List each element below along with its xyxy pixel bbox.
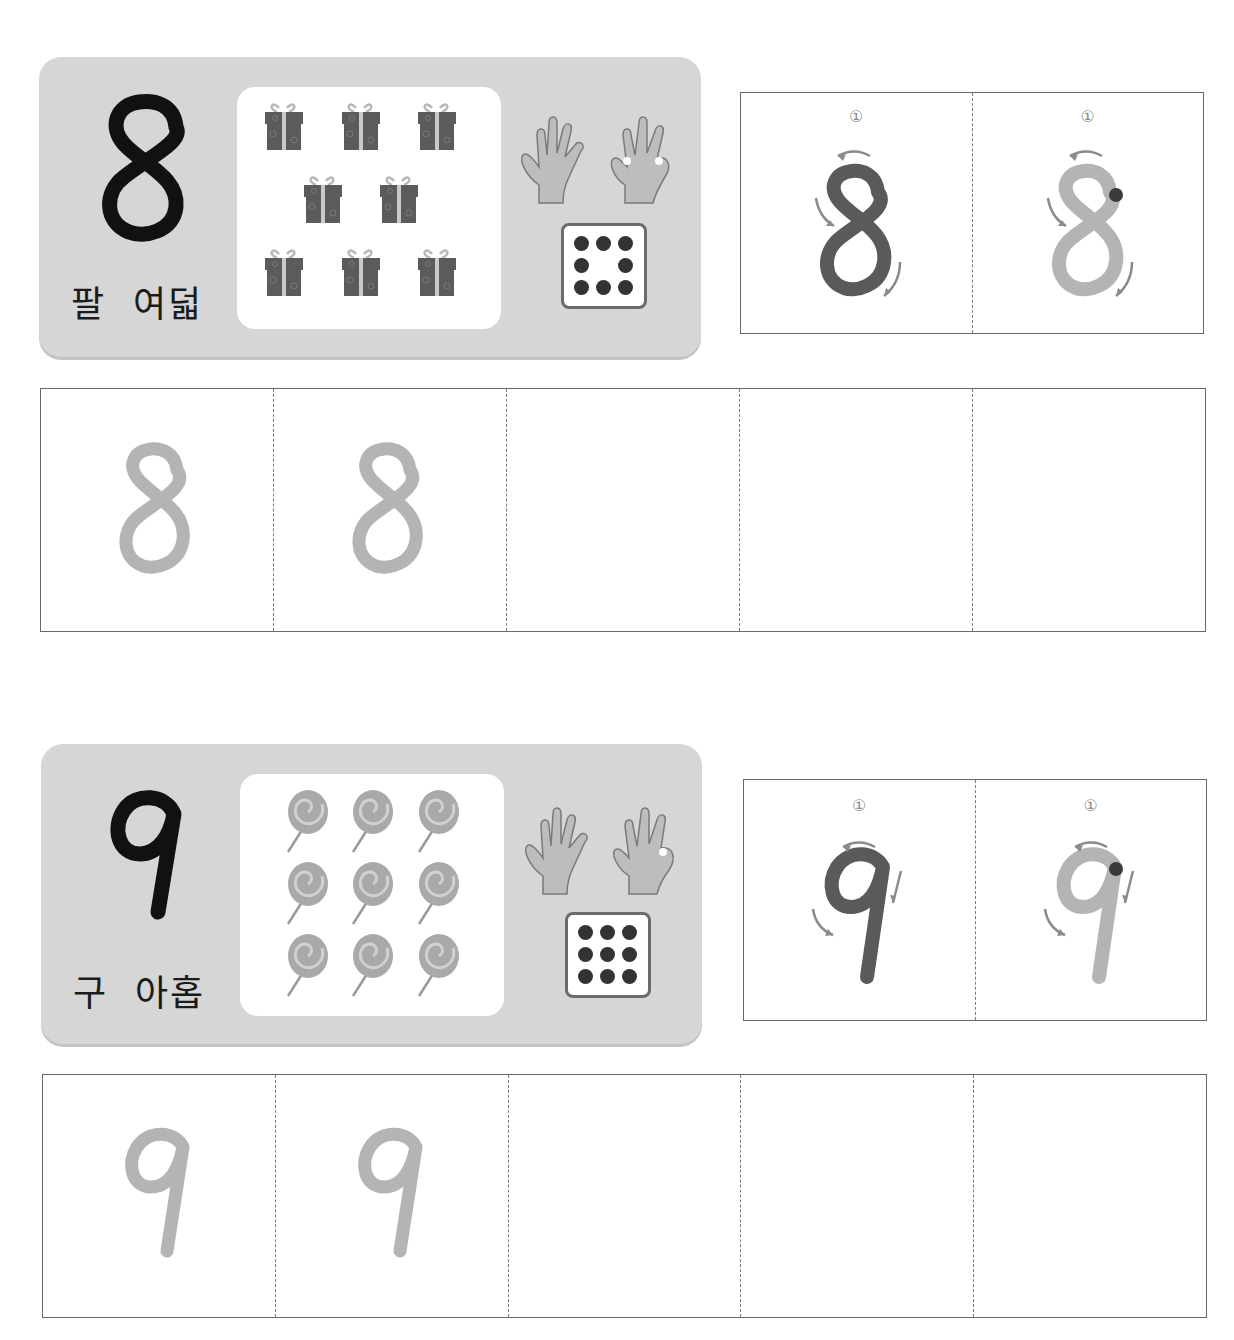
picture-panel-lollipops [240, 774, 504, 1016]
gift-box-icon-group [237, 87, 501, 329]
stroke-guide-box-9: ① ① [743, 779, 1207, 1021]
practice-cell-empty[interactable] [507, 389, 740, 631]
hands-eight-fingers-icon [517, 115, 687, 205]
dice-9-pips [565, 912, 651, 998]
practice-cell-empty[interactable] [509, 1075, 742, 1317]
step-label: ① [852, 796, 866, 815]
step-label: ① [1084, 796, 1098, 815]
practice-row-9 [42, 1074, 1207, 1318]
big-digit-8 [94, 92, 194, 242]
stroke-trace-cell-8[interactable]: ① [973, 93, 1204, 333]
practice-cell-trace[interactable] [43, 1075, 276, 1317]
step-label: ① [849, 107, 863, 126]
practice-row-8 [40, 388, 1206, 632]
stroke-model-cell-9: ① [744, 780, 976, 1020]
practice-cell-empty[interactable] [741, 1075, 974, 1317]
picture-panel-gifts [237, 87, 501, 329]
practice-cell-empty[interactable] [740, 389, 973, 631]
digit-8-trace-icon [107, 440, 207, 580]
practice-cell-trace[interactable] [41, 389, 274, 631]
digit-9-trace-icon [1031, 827, 1151, 997]
number-card-9: 구 아홉 [41, 744, 702, 1044]
number-word-8: 팔 여덟 [71, 275, 203, 327]
number-word-9: 구 아홉 [73, 964, 205, 1016]
step-label: ① [1081, 107, 1095, 126]
practice-cell-trace[interactable] [276, 1075, 509, 1317]
practice-cell-trace[interactable] [274, 389, 507, 631]
digit-8-trace-icon [340, 440, 440, 580]
dice-8-pips [561, 223, 647, 309]
start-dot-icon [1109, 862, 1123, 876]
stroke-trace-cell-9[interactable]: ① [976, 780, 1207, 1020]
big-digit-9 [96, 784, 196, 934]
digit-8-model-icon [796, 140, 916, 310]
digit-8-trace-icon [1028, 140, 1148, 310]
digit-9-trace-icon [109, 1121, 209, 1271]
lollipop-icon-group [240, 774, 504, 1016]
start-dot-icon [1109, 188, 1123, 202]
practice-cell-empty[interactable] [974, 1075, 1206, 1317]
digit-9-model-icon [799, 827, 919, 997]
number-card-8: 팔 여덟 [39, 57, 701, 357]
stroke-model-cell-8: ① [741, 93, 973, 333]
hands-nine-fingers-icon [521, 806, 691, 896]
practice-cell-empty[interactable] [973, 389, 1205, 631]
stroke-guide-box-8: ① ① [740, 92, 1204, 334]
digit-9-trace-icon [342, 1121, 442, 1271]
